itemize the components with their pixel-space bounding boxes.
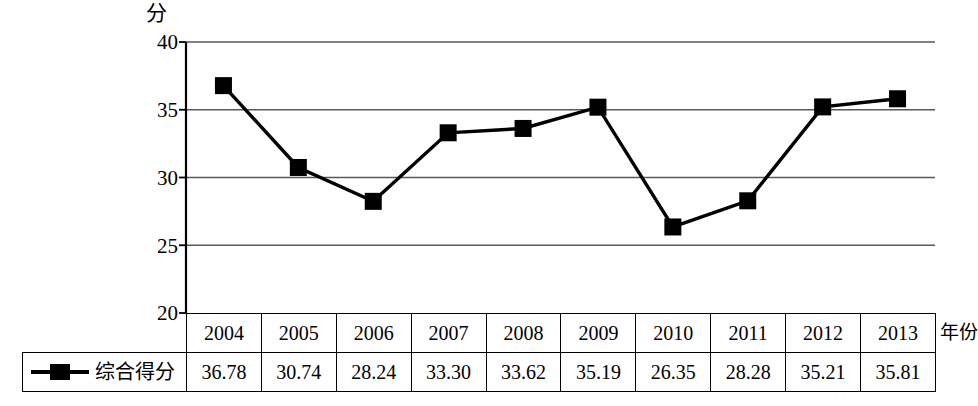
year-cell-2013: 2013 bbox=[861, 314, 936, 353]
data-point-2013 bbox=[889, 90, 906, 107]
table-row-values: 综合得分 36.78 30.74 28.24 33.30 33.62 35.19… bbox=[23, 353, 936, 392]
value-cell-2007: 33.30 bbox=[411, 353, 486, 392]
year-cell-2011: 2011 bbox=[711, 314, 786, 353]
table-row-years: 2004 2005 2006 2007 2008 2009 2010 2011 … bbox=[23, 314, 936, 353]
data-point-2009 bbox=[589, 99, 606, 116]
year-cell-2005: 2005 bbox=[261, 314, 336, 353]
data-point-2010 bbox=[664, 218, 681, 235]
value-cell-2010: 26.35 bbox=[636, 353, 711, 392]
year-cell-2010: 2010 bbox=[636, 314, 711, 353]
value-cell-2009: 35.19 bbox=[561, 353, 636, 392]
value-cell-2011: 28.28 bbox=[711, 353, 786, 392]
legend-series-symbol bbox=[31, 362, 89, 382]
series-markers bbox=[215, 77, 906, 235]
data-point-2008 bbox=[515, 120, 532, 137]
year-cell-2008: 2008 bbox=[486, 314, 561, 353]
year-cell-2009: 2009 bbox=[561, 314, 636, 353]
value-cell-2012: 35.21 bbox=[786, 353, 861, 392]
series-line-comprehensive-score bbox=[223, 86, 897, 227]
data-point-2005 bbox=[290, 159, 307, 176]
value-cell-2004: 36.78 bbox=[187, 353, 262, 392]
year-cell-2007: 2007 bbox=[411, 314, 486, 353]
gridlines bbox=[186, 42, 935, 245]
value-cell-2008: 33.62 bbox=[486, 353, 561, 392]
legend-label: 综合得分 bbox=[95, 362, 175, 382]
x-axis-name-label: 年份 bbox=[940, 322, 978, 342]
table-corner-blank bbox=[23, 314, 187, 353]
legend-cell: 综合得分 bbox=[23, 353, 187, 392]
value-cell-2006: 28.24 bbox=[336, 353, 411, 392]
data-table: 2004 2005 2006 2007 2008 2009 2010 2011 … bbox=[22, 313, 936, 392]
y-axis-line bbox=[179, 42, 186, 313]
year-cell-2006: 2006 bbox=[336, 314, 411, 353]
chart-page: 分 40 35 30 25 20 年份 bbox=[0, 0, 978, 406]
value-cell-2013: 35.81 bbox=[861, 353, 936, 392]
value-cell-2005: 30.74 bbox=[261, 353, 336, 392]
data-point-2007 bbox=[440, 124, 457, 141]
year-cell-2012: 2012 bbox=[786, 314, 861, 353]
legend-square-marker-icon bbox=[50, 364, 70, 380]
data-point-2004 bbox=[215, 77, 232, 94]
year-cell-2004: 2004 bbox=[187, 314, 262, 353]
data-point-2012 bbox=[814, 98, 831, 115]
data-point-2011 bbox=[739, 192, 756, 209]
data-point-2006 bbox=[365, 193, 382, 210]
